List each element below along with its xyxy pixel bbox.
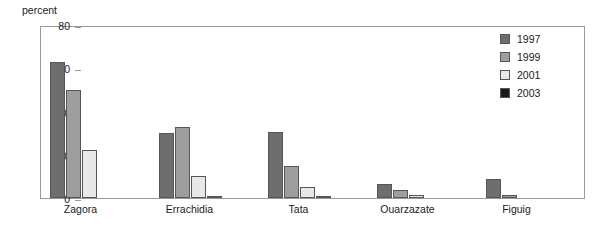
- x-axis-category-label: Figuig: [502, 203, 531, 215]
- y-axis-tick-mark: [75, 200, 81, 201]
- bar: [268, 132, 283, 198]
- bar: [486, 179, 501, 198]
- bar-group: [377, 27, 440, 198]
- bar: [502, 195, 517, 198]
- bar: [409, 195, 424, 198]
- chart-legend: 1997199920012003: [500, 31, 570, 103]
- bar-chart: percent 020406080 ZagoraErrachidiaTataOu…: [0, 0, 599, 233]
- legend-swatch-icon: [500, 34, 510, 44]
- legend-item: 2003: [500, 85, 570, 101]
- bar-group: [268, 27, 331, 198]
- bar-group: [50, 27, 113, 198]
- bar: [300, 187, 315, 198]
- bar: [66, 90, 81, 198]
- legend-item-label: 2001: [517, 69, 540, 81]
- bar: [207, 196, 222, 198]
- x-axis-category-label: Tata: [289, 203, 309, 215]
- x-axis-category-label: Errachidia: [166, 203, 213, 215]
- x-axis-category-label: Ouarzazate: [380, 203, 434, 215]
- bar: [175, 127, 190, 198]
- x-axis-category-label: Zagora: [64, 203, 97, 215]
- bar: [159, 133, 174, 198]
- bar: [82, 150, 97, 198]
- bar: [377, 184, 392, 198]
- bar: [316, 196, 331, 198]
- legend-item: 1999: [500, 49, 570, 65]
- legend-item: 1997: [500, 31, 570, 47]
- y-axis-unit-label: percent: [22, 4, 57, 16]
- legend-swatch-icon: [500, 88, 510, 98]
- legend-item-label: 1997: [517, 33, 540, 45]
- legend-swatch-icon: [500, 70, 510, 80]
- bar: [191, 176, 206, 198]
- bar-group: [159, 27, 222, 198]
- bar: [393, 190, 408, 198]
- legend-item-label: 1999: [517, 51, 540, 63]
- bar: [50, 62, 65, 198]
- bar: [284, 166, 299, 198]
- legend-item: 2001: [500, 67, 570, 83]
- legend-item-label: 2003: [517, 87, 540, 99]
- legend-swatch-icon: [500, 52, 510, 62]
